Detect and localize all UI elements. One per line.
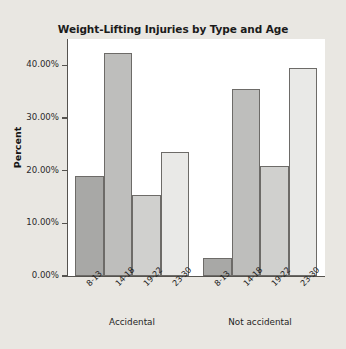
y-tick-mark <box>62 170 68 171</box>
bar <box>104 53 133 276</box>
bar <box>232 89 261 276</box>
y-tick-label: 30.00% <box>0 112 59 122</box>
y-tick-label: 20.00% <box>0 165 59 175</box>
chart-container: Weight-Lifting Injuries by Type and Age … <box>0 0 346 349</box>
x-axis-group-label: Not accidental <box>183 317 337 327</box>
y-tick-mark <box>62 275 68 276</box>
chart-title: Weight-Lifting Injuries by Type and Age <box>0 23 346 35</box>
bar <box>260 166 289 276</box>
y-tick-mark <box>62 117 68 118</box>
y-tick-mark <box>62 223 68 224</box>
y-tick-mark <box>62 65 68 66</box>
y-axis-line <box>67 39 68 277</box>
y-tick-label: 0.00% <box>0 270 59 280</box>
y-tick-label: 10.00% <box>0 217 59 227</box>
bar <box>161 152 190 276</box>
bar <box>75 176 104 276</box>
bar <box>289 68 318 276</box>
y-tick-label: 40.00% <box>0 59 59 69</box>
